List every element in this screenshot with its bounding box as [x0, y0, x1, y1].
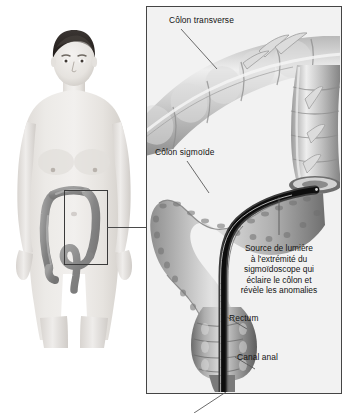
zoom-connector-line — [107, 227, 149, 228]
detail-panel: Côlon transverse Côlon sigmoïde Source d… — [146, 6, 342, 394]
leader-scope-shaft-offscreen — [180, 392, 240, 413]
descending-colon-art — [291, 65, 340, 183]
colon-anatomy-artwork — [147, 7, 340, 392]
label-colon-transverse: Côlon transverse — [169, 15, 234, 25]
light-source-note-line-4: éclaire le côlon et — [221, 275, 337, 286]
light-source-note-line-2: à l'extrémité du — [221, 254, 337, 265]
label-canal-anal: Canal anal — [237, 352, 278, 362]
illustration-canvas: Côlon transverse Côlon sigmoïde Source d… — [0, 0, 345, 413]
label-rectum: Rectum — [229, 313, 258, 323]
label-colon-sigmoide: Côlon sigmoïde — [155, 147, 215, 157]
body-figure — [0, 18, 148, 348]
light-source-note-line-5: révèle les anomalies — [221, 285, 337, 296]
abdomen-zoom-region — [64, 190, 108, 265]
light-source-note-line-3: sigmoïdoscope qui — [221, 264, 337, 275]
light-source-note-line-1: Source de lumière — [221, 243, 337, 254]
light-source-note: Source de lumière à l'extrémité du sigmo… — [221, 243, 337, 296]
